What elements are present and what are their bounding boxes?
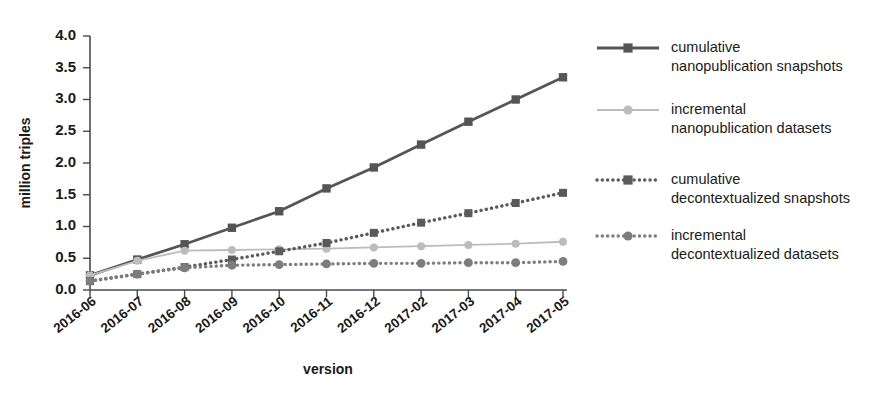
legend-item-1[interactable]: incrementalnanopublication datasets [597,101,831,136]
y-axis-ticks: 0.00.51.01.52.02.53.03.54.0 [55,26,90,297]
chart-figure: million triples 0.00.51.01.52.02.53.03.5… [0,0,879,401]
x-tick-label: 2017-05 [524,293,573,336]
data-point-marker [133,257,141,265]
y-axis-title: million triples [17,117,33,208]
data-point-marker [464,258,473,267]
y-tick-label: 0.0 [55,280,76,297]
y-tick-label: 0.5 [55,248,76,265]
x-tick-label: 2016-09 [192,294,240,336]
series-3 [86,257,568,285]
x-tick-label: 2016-11 [288,293,336,335]
data-point-marker [512,199,520,207]
data-point-marker [417,242,425,250]
data-point-marker [322,260,331,269]
data-point-marker [369,259,378,268]
data-point-marker [275,247,283,255]
x-axis-title: version [303,361,353,377]
x-tick-label: 2017-03 [429,293,478,336]
data-point-marker [417,259,426,268]
data-point-marker [559,189,567,197]
x-tick-label: 2017-04 [476,293,525,336]
data-point-marker [275,260,284,269]
data-point-marker [275,207,283,215]
legend-label-line2: nanopublication datasets [671,120,831,136]
data-point-marker [86,277,95,286]
legend-label-line1: incremental [671,227,746,243]
y-tick-label: 2.5 [55,121,76,138]
chart-legend: cumulativenanopublication snapshotsincre… [597,39,850,262]
data-point-marker [623,231,632,240]
data-point-marker [370,229,378,237]
data-point-marker [322,184,330,192]
y-tick-label: 1.0 [55,216,76,233]
data-point-marker [181,247,189,255]
legend-label-line2: nanopublication snapshots [671,58,843,74]
line-chart: million triples 0.00.51.01.52.02.53.03.5… [0,0,879,401]
x-tick-label: 2016-12 [334,294,382,336]
y-tick-label: 3.0 [55,89,76,106]
y-tick-label: 2.0 [55,153,76,170]
y-axis-title-label: million triples [17,117,33,208]
data-point-marker [464,118,472,126]
x-axis-ticks: 2016-062016-072016-082016-092016-102016-… [51,290,573,336]
data-point-marker [228,224,236,232]
data-point-marker [623,43,632,52]
legend-label-line1: cumulative [671,39,740,55]
data-series-group [86,73,568,285]
data-point-marker [180,263,189,272]
x-tick-label: 2016-07 [98,294,146,336]
legend-item-2[interactable]: cumulativedecontextualized snapshots [597,171,850,206]
data-point-marker [512,95,520,103]
data-point-marker [417,140,425,148]
data-point-marker [559,257,568,266]
legend-label-line1: incremental [671,101,746,117]
legend-item-3[interactable]: incrementaldecontextualized datasets [597,227,839,262]
data-point-marker [623,105,632,114]
data-point-marker [559,73,567,81]
x-tick-label: 2016-10 [240,294,288,336]
data-point-marker [511,258,520,267]
data-point-marker [417,219,425,227]
x-tick-label: 2016-06 [51,293,100,336]
legend-label-line2: decontextualized snapshots [671,190,850,206]
y-tick-label: 3.5 [55,58,76,75]
data-point-marker [623,175,632,184]
data-point-marker [228,261,237,270]
data-point-marker [512,240,520,248]
data-point-marker [228,246,236,254]
y-tick-label: 1.5 [55,185,76,202]
data-point-marker [559,238,567,246]
data-point-marker [370,243,378,251]
legend-label-line2: decontextualized datasets [671,246,839,262]
data-point-marker [370,163,378,171]
data-point-marker [323,239,331,247]
legend-label-line1: cumulative [671,171,740,187]
legend-item-0[interactable]: cumulativenanopublication snapshots [597,39,843,74]
x-axis-title-label: version [303,361,353,377]
data-point-marker [464,209,472,217]
data-point-marker [464,241,472,249]
data-point-marker [133,270,142,279]
y-tick-label: 4.0 [55,26,76,43]
x-tick-label: 2016-08 [145,293,194,336]
x-tick-label: 2017-02 [382,294,430,336]
